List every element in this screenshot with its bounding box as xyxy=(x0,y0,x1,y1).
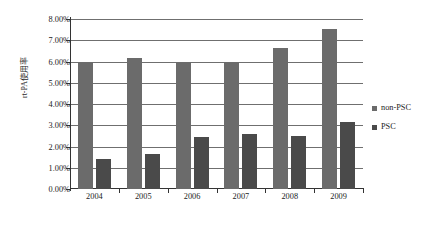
legend-swatch-icon xyxy=(372,106,377,111)
bar-psc-2006 xyxy=(194,137,209,189)
bars-layer xyxy=(70,19,363,189)
bar-psc-2007 xyxy=(242,134,257,189)
y-axis-tick-labels: 0.00%1.00%2.00%3.00%4.00%5.00%6.00%7.00%… xyxy=(28,0,70,225)
y-tickmark xyxy=(66,62,71,63)
y-tickmark xyxy=(66,125,71,126)
x-tick-label: 2008 xyxy=(281,192,298,201)
y-tickmark xyxy=(66,189,71,190)
y-tickmark xyxy=(66,40,71,41)
bar-non-psc-2005 xyxy=(127,58,142,189)
y-tickmark xyxy=(66,104,71,105)
bar-psc-2004 xyxy=(96,159,111,189)
y-tickmark xyxy=(66,168,71,169)
plot-area xyxy=(70,19,363,189)
legend-item-psc[interactable]: PSC xyxy=(372,122,430,132)
x-tick-label: 2005 xyxy=(135,192,152,201)
x-tick-label: 2006 xyxy=(184,192,201,201)
y-tickmark xyxy=(66,83,71,84)
bar-non-psc-2006 xyxy=(176,62,191,190)
legend-swatch-icon xyxy=(372,125,377,130)
bar-non-psc-2004 xyxy=(78,62,93,190)
bar-non-psc-2009 xyxy=(322,29,337,189)
x-tickmark xyxy=(363,188,364,193)
y-axis-title: rt-PA使用率 xyxy=(18,33,29,123)
legend-item-non-psc[interactable]: non-PSC xyxy=(372,103,430,113)
y-tickmark xyxy=(66,19,71,20)
legend-label: non-PSC xyxy=(381,103,411,113)
bar-psc-2009 xyxy=(340,122,355,189)
bar-non-psc-2008 xyxy=(273,48,288,189)
x-tick-label: 2004 xyxy=(86,192,103,201)
legend-label: PSC xyxy=(381,122,396,132)
x-axis-tick-labels: 200420052006200720082009 xyxy=(70,192,363,208)
x-tick-label: 2009 xyxy=(330,192,347,201)
bar-psc-2008 xyxy=(291,136,306,189)
bar-chart: rt-PA使用率 0.00%1.00%2.00%3.00%4.00%5.00%6… xyxy=(0,0,430,225)
bar-non-psc-2007 xyxy=(224,62,239,190)
y-tickmark xyxy=(66,147,71,148)
bar-psc-2005 xyxy=(145,154,160,189)
x-tick-label: 2007 xyxy=(233,192,250,201)
chart-legend: non-PSCPSC xyxy=(372,103,430,141)
